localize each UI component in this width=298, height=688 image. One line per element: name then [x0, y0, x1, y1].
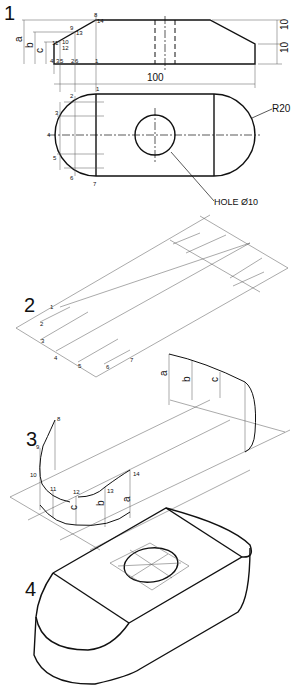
letter-b-front: b — [95, 500, 106, 506]
crate-edge — [56, 243, 250, 351]
iso-point-12: 12 — [73, 489, 80, 495]
iso-point-10: 10 — [30, 472, 37, 478]
letter-a: a — [13, 36, 24, 42]
point-11: 11 — [52, 40, 59, 46]
plan-point-3: 3 — [55, 110, 59, 116]
front-top-curve-right — [78, 470, 130, 497]
iso-point-1: 1 — [50, 304, 54, 310]
letter-b-rear: b — [181, 376, 192, 382]
point-13: 13 — [76, 30, 83, 36]
hole-circle — [135, 115, 175, 155]
plan-point-6: 6 — [70, 175, 74, 181]
radius-label: R20 — [272, 103, 291, 114]
isometric-construction-diagram: 1 a b c 8 14 9 13 11 10 12 4 3 5 2 6 1 — [0, 0, 298, 688]
construction-line — [28, 420, 230, 520]
point-9: 9 — [70, 25, 74, 31]
letter-a-rear: a — [158, 370, 169, 376]
point-12: 12 — [62, 45, 69, 51]
iso-point-9: 9 — [36, 444, 40, 450]
tangent-edge-front — [53, 573, 129, 623]
crate-edge — [200, 216, 288, 268]
rear-curve — [169, 354, 256, 452]
construction-line — [173, 233, 200, 244]
plan-point-5: 5 — [53, 155, 57, 161]
plan-outline — [55, 94, 255, 176]
letter-c-rear: c — [209, 377, 220, 382]
point-14: 14 — [97, 18, 104, 24]
plan-point-7: 7 — [93, 181, 97, 187]
letter-c: c — [34, 48, 45, 53]
iso-point-4: 4 — [54, 355, 58, 361]
isometric-crate: 2 1 2 3 4 5 6 7 — [16, 215, 288, 377]
radius-leader — [252, 109, 272, 118]
plan-view: 1 2 3 4 5 6 7 R20 HOLE Ø10 — [47, 86, 291, 207]
crate-edge — [60, 243, 250, 307]
letter-b: b — [24, 42, 35, 48]
tangent-edge-rear — [166, 508, 242, 557]
front-elevation: 1 a b c 8 14 9 13 11 10 12 4 3 5 2 6 1 — [4, 2, 290, 92]
crate-edge — [16, 215, 210, 328]
iso-point-7: 7 — [130, 357, 134, 363]
letter-c-front: c — [68, 505, 79, 510]
step-2-label: 2 — [24, 294, 35, 316]
construction-line — [170, 400, 285, 432]
construction-line — [60, 430, 290, 540]
plan-point-2: 2 — [70, 93, 74, 99]
isometric-curves: 3 a b c 8 9 10 11 12 13 14 c b a — [10, 354, 290, 550]
iso-point-3: 3 — [41, 338, 45, 344]
iso-point-13: 13 — [107, 488, 114, 494]
point-1: 1 — [95, 58, 99, 64]
construction-line — [78, 339, 118, 362]
letter-a-front: a — [121, 496, 132, 502]
construction-line — [40, 312, 88, 340]
step-4-label: 4 — [25, 578, 36, 600]
iso-point-11: 11 — [50, 486, 57, 492]
crate-edge — [170, 240, 260, 292]
iso-point-14: 14 — [133, 471, 140, 477]
dim-10-lower: 10 — [279, 41, 290, 53]
iso-point-2: 2 — [40, 321, 44, 327]
elevation-outline — [54, 20, 255, 64]
hole-label: HOLE Ø10 — [214, 197, 258, 207]
dim-10-upper: 10 — [279, 18, 290, 30]
iso-point-8: 8 — [57, 416, 61, 422]
construction-line — [186, 235, 226, 253]
dim-100: 100 — [147, 72, 164, 83]
construction-line — [10, 497, 100, 550]
step-1-label: 1 — [4, 2, 15, 24]
point-5: 5 — [60, 58, 64, 64]
construction-line — [40, 307, 70, 322]
point-6: 6 — [75, 58, 79, 64]
isometric-solid: 4 — [25, 508, 251, 684]
plan-point-1: 1 — [96, 86, 100, 92]
construction-line — [104, 350, 130, 364]
iso-point-6: 6 — [106, 364, 110, 370]
front-top-curve — [36, 573, 129, 650]
